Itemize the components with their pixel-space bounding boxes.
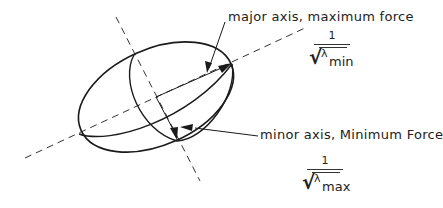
numerator: 1 xyxy=(307,30,357,42)
minor-axis-label: minor axis, Minimum Force xyxy=(260,127,443,142)
major-axis-arrow xyxy=(156,66,226,97)
lambda-symbol: λ xyxy=(314,172,321,185)
subscript: min xyxy=(329,54,354,69)
lambda-symbol: λ xyxy=(321,47,328,60)
major-leader-line xyxy=(209,22,225,68)
cross-section-curve xyxy=(130,55,233,141)
formula-lambda-min: 1 √ λ min xyxy=(307,30,357,69)
minor-leader-arrowhead-icon xyxy=(180,124,193,131)
numerator: 1 xyxy=(300,155,350,167)
formula-lambda-max: 1 √ λ max xyxy=(300,155,350,194)
ellipsoid-diagram xyxy=(0,0,443,208)
minor-arrowhead-icon xyxy=(170,127,178,140)
major-axis-label: major axis, maximum force xyxy=(228,9,414,24)
minor-leader-line xyxy=(195,128,258,136)
major-arrowhead-icon xyxy=(218,63,232,73)
subscript: max xyxy=(322,179,350,194)
